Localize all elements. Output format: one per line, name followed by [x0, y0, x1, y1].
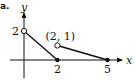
y-axis-label: y	[20, 1, 28, 14]
segment-2	[57, 46, 107, 61]
x-tick-label-2: 2	[54, 63, 61, 76]
labels: xy252(2, 1)	[12, 1, 133, 76]
point-0-2	[21, 28, 26, 33]
part-label: a.	[0, 1, 10, 11]
x-axis-label: x	[126, 54, 133, 67]
x-tick-label-5: 5	[104, 63, 111, 76]
point-2-0	[55, 58, 59, 62]
point-5-0	[105, 58, 109, 62]
chart: a. xy252(2, 1)	[0, 0, 135, 81]
y-tick-label-2: 2	[12, 25, 19, 38]
point-2-1	[55, 43, 60, 48]
annotation-0: (2, 1)	[45, 30, 75, 43]
